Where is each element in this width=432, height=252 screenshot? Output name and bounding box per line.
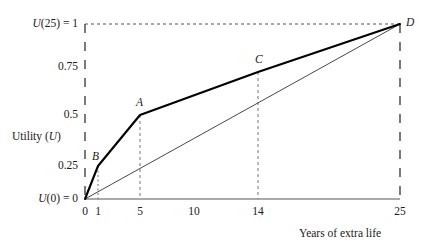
y-tick-label-0: U(0) = 0	[0, 193, 78, 205]
point-label-d: D	[406, 17, 414, 29]
chart-canvas	[0, 0, 432, 252]
y-tick-label-025: 0.25	[0, 160, 78, 172]
y-tick-label-1: U(25) = 1	[0, 18, 78, 30]
point-label-b: B	[92, 151, 99, 163]
x-tick-label-25: 25	[390, 206, 410, 218]
point-label-c: C	[255, 54, 263, 66]
y-axis-title: Utility (U)	[12, 131, 61, 143]
point-label-a: A	[136, 97, 143, 109]
x-axis-title: Years of extra life	[299, 228, 381, 240]
linear-reference-line	[85, 24, 400, 199]
utility-chart-figure: U(25) = 1 0.75 0.5 0.25 U(0) = 0 Utility…	[0, 0, 432, 252]
y-tick-label-075: 0.75	[0, 61, 78, 73]
x-tick-label-5: 5	[130, 206, 150, 218]
x-tick-label-1: 1	[88, 206, 108, 218]
x-tick-label-14: 14	[248, 206, 268, 218]
x-tick-label-10: 10	[184, 206, 204, 218]
y-tick-label-05: 0.5	[0, 109, 78, 121]
